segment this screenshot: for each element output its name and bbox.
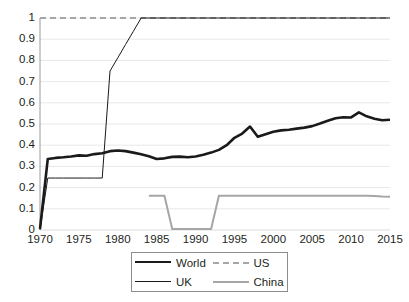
thin-line-swatch-icon	[135, 277, 171, 287]
line-swatch-icon	[135, 258, 171, 268]
dashed-line-swatch-icon	[213, 258, 249, 268]
legend-label-china: China	[249, 276, 284, 288]
legend-label-uk: UK	[171, 276, 192, 288]
chart-container: 00.10.20.30.40.50.60.70.80.91 1970197519…	[0, 0, 409, 302]
series-line-china	[149, 196, 390, 229]
legend-label-world: World	[171, 257, 206, 269]
legend-item-uk[interactable]: UK	[132, 272, 210, 291]
gridlines	[40, 18, 390, 230]
legend-label-us: US	[249, 257, 270, 269]
gray-line-swatch-icon	[213, 277, 249, 287]
chart-legend: World US UK China	[131, 252, 288, 292]
legend-item-china[interactable]: China	[210, 272, 288, 291]
legend-item-world[interactable]: World	[132, 253, 210, 272]
legend-item-us[interactable]: US	[210, 253, 288, 272]
